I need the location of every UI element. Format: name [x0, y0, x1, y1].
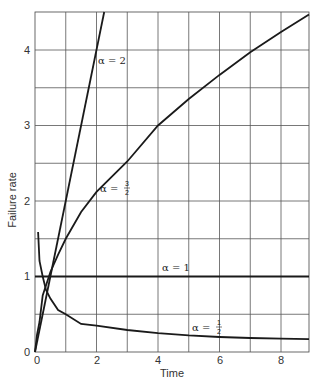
svg-text:2: 2 — [217, 328, 221, 335]
svg-text:α =: α = — [100, 183, 118, 194]
grid — [35, 12, 309, 352]
curve-alpha-3-2 — [35, 15, 309, 353]
svg-text:2: 2 — [125, 189, 129, 196]
x-tick-2: 2 — [94, 354, 100, 366]
failure-rate-chart: 0 1 2 3 4 0 2 4 6 8 Time Failure rate α … — [0, 0, 323, 383]
svg-text:α =: α = — [192, 322, 210, 333]
x-tick-6: 6 — [217, 354, 223, 366]
y-tick-2: 2 — [24, 195, 30, 207]
curve-alpha-1-2 — [38, 232, 309, 339]
annotation-alpha-2: α = 2 — [98, 55, 126, 66]
y-tick-1: 1 — [24, 270, 30, 282]
y-tick-0: 0 — [24, 346, 30, 358]
curve-alpha-2 — [35, 12, 104, 352]
x-tick-0: 0 — [34, 354, 40, 366]
x-tick-8: 8 — [278, 354, 284, 366]
annotation-alpha-3-2: α = 3 2 — [100, 180, 130, 196]
y-tick-3: 3 — [24, 119, 30, 131]
svg-text:3: 3 — [125, 180, 129, 187]
x-tick-4: 4 — [155, 354, 161, 366]
y-tick-4: 4 — [24, 44, 30, 56]
x-axis-label: Time — [160, 367, 184, 379]
svg-text:1: 1 — [217, 319, 221, 326]
annotation-alpha-1-2: α = 1 2 — [192, 319, 222, 335]
y-axis-label: Failure rate — [6, 172, 18, 228]
annotation-alpha-1: α = 1 — [162, 262, 190, 273]
curves — [35, 12, 309, 352]
